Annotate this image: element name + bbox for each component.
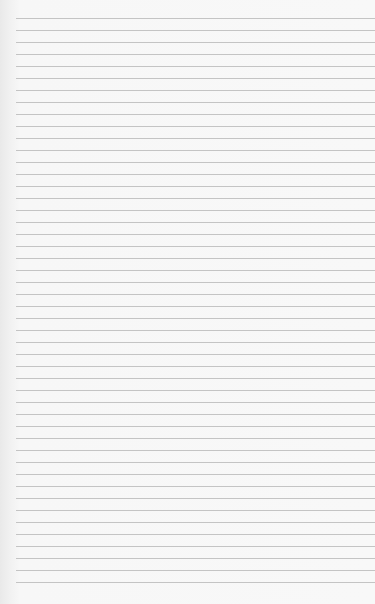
ruled-line	[16, 354, 375, 355]
ruled-line	[16, 510, 375, 511]
ruled-line	[16, 462, 375, 463]
ruled-line	[16, 330, 375, 331]
ruled-line	[16, 426, 375, 427]
ruled-line	[16, 570, 375, 571]
ruled-line	[16, 114, 375, 115]
ruled-line	[16, 546, 375, 547]
ruled-line	[16, 558, 375, 559]
ruled-line	[16, 282, 375, 283]
ruled-line	[16, 522, 375, 523]
ruled-lines	[16, 0, 375, 604]
ruled-line	[16, 174, 375, 175]
ruled-line	[16, 342, 375, 343]
ruled-line	[16, 294, 375, 295]
ruled-line	[16, 66, 375, 67]
ruled-line	[16, 18, 375, 19]
ruled-line	[16, 162, 375, 163]
ruled-line	[16, 390, 375, 391]
ruled-line	[16, 306, 375, 307]
ruled-line	[16, 150, 375, 151]
ruled-line	[16, 234, 375, 235]
ruled-line	[16, 30, 375, 31]
ruled-line	[16, 534, 375, 535]
ruled-line	[16, 270, 375, 271]
ruled-line	[16, 198, 375, 199]
ruled-line	[16, 138, 375, 139]
ruled-line	[16, 366, 375, 367]
ruled-line	[16, 582, 375, 583]
ruled-line	[16, 414, 375, 415]
ruled-line	[16, 486, 375, 487]
lined-paper	[0, 0, 375, 604]
ruled-line	[16, 126, 375, 127]
ruled-line	[16, 378, 375, 379]
ruled-line	[16, 258, 375, 259]
ruled-line	[16, 246, 375, 247]
ruled-line	[16, 222, 375, 223]
ruled-line	[16, 450, 375, 451]
ruled-line	[16, 498, 375, 499]
ruled-line	[16, 402, 375, 403]
ruled-line	[16, 438, 375, 439]
ruled-line	[16, 102, 375, 103]
ruled-line	[16, 78, 375, 79]
ruled-line	[16, 186, 375, 187]
ruled-line	[16, 90, 375, 91]
ruled-line	[16, 42, 375, 43]
ruled-line	[16, 210, 375, 211]
ruled-line	[16, 54, 375, 55]
ruled-line	[16, 474, 375, 475]
ruled-line	[16, 318, 375, 319]
